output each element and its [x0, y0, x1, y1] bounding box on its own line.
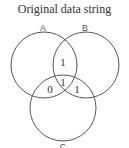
region-bc-value: 1	[74, 83, 80, 95]
venn-diagram: A B C 1 1 0 1	[0, 0, 129, 148]
region-ac-value: 0	[47, 83, 53, 95]
label-a: A	[40, 23, 46, 33]
circle-a	[11, 32, 77, 98]
label-c: C	[60, 142, 67, 148]
region-ab-value: 1	[60, 56, 66, 68]
region-abc-value: 1	[60, 76, 66, 88]
label-b: B	[82, 23, 88, 33]
